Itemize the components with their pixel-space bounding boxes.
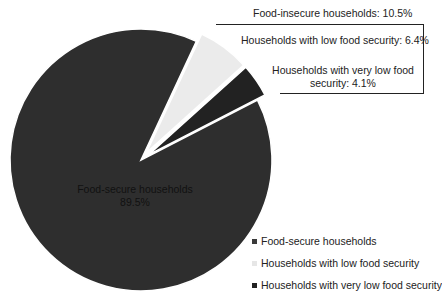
slice-label-very-low-line1: Households with very low food bbox=[268, 64, 418, 77]
bracket-top-line bbox=[216, 24, 424, 25]
bracket-bottom-line bbox=[280, 93, 424, 94]
slice-label-very-low: Households with very low food security: … bbox=[268, 64, 418, 90]
food-insecure-total-label: Food-insecure households: 10.5% bbox=[253, 7, 412, 20]
legend-label-food-secure: Food-secure households bbox=[261, 235, 377, 247]
legend-swatch-very-low bbox=[252, 283, 257, 288]
pie-slices bbox=[10, 29, 272, 291]
slice-label-very-low-line2: security: 4.1% bbox=[268, 77, 418, 90]
legend-item-food-secure: Food-secure households bbox=[252, 234, 377, 248]
legend-label-low: Households with low food security bbox=[261, 257, 419, 269]
slice-label-food-secure: Food-secure households 89.5% bbox=[64, 183, 206, 209]
legend-item-very-low: Households with very low food security bbox=[252, 278, 442, 292]
legend-item-low: Households with low food security bbox=[252, 256, 419, 270]
slice-label-food-secure-value: 89.5% bbox=[64, 196, 206, 209]
slice-label-food-secure-name: Food-secure households bbox=[64, 183, 206, 196]
legend-swatch-food-secure bbox=[252, 239, 257, 244]
legend-label-very-low: Households with very low food security bbox=[261, 279, 442, 291]
slice-label-low: Households with low food security: 6.4% bbox=[241, 34, 429, 47]
legend-swatch-low bbox=[252, 261, 257, 266]
